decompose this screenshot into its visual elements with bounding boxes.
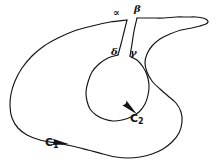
outer-contour-letter: C	[45, 136, 53, 149]
diagram-canvas	[0, 0, 218, 166]
inner-contour-subscript: 2	[138, 117, 144, 126]
slit-delta-label: δ	[111, 47, 118, 57]
outer-contour-path	[10, 17, 208, 158]
curves-group	[10, 17, 208, 158]
arrowheads-group	[52, 101, 137, 145]
slit-left-edge-path	[118, 20, 127, 55]
inner-contour-path	[86, 55, 149, 121]
outer-contour-subscript: 1	[53, 141, 59, 150]
inner-contour-letter: C	[130, 112, 138, 125]
slit-gamma-label: γ	[130, 48, 137, 58]
outer-contour-label: C1	[45, 137, 59, 150]
slit-alpha-label: ∝	[113, 8, 120, 18]
contour-diagram-figure: ∝ β δ γ C2 C1	[0, 0, 218, 166]
slit-beta-label: β	[134, 4, 141, 14]
inner-contour-label: C2	[130, 113, 144, 126]
